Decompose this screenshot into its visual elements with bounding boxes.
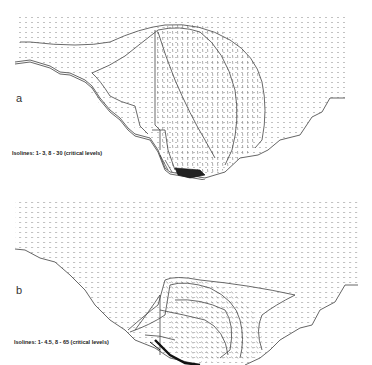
caption-a: Isolines: 1- 3, 8 - 30 (critical levels)	[12, 150, 102, 156]
vector-field-b	[0, 180, 372, 365]
panel-label-b: b	[16, 284, 22, 296]
panel-label-a: a	[16, 92, 22, 104]
panel-b-plot	[0, 180, 372, 365]
caption-b: Isolines: 1- 4.5, 8 - 65 (critical level…	[14, 339, 109, 345]
panel-b: b Isolines: 1- 4.5, 8 - 65 (critical lev…	[0, 180, 372, 365]
panel-a: a Isolines: 1- 3, 8 - 30 (critical level…	[0, 0, 372, 180]
